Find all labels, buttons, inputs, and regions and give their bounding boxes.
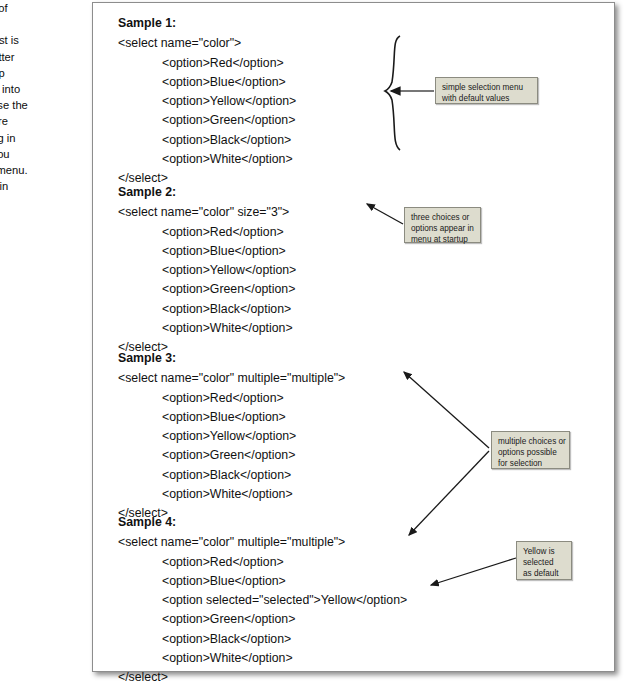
callout-line: three choices or [411,212,474,223]
code-line: <option>Black</option> [118,300,296,319]
code-line: <option>Green</option> [118,111,296,130]
code-line: <option>Blue</option> [118,408,345,427]
text-line: read. A better [0,49,86,65]
code-line: <option>Yellow</option> [118,92,296,111]
code-line: <option>Green</option> [118,610,407,629]
text-line: > tag before [0,113,86,129]
clipped-paragraph: e number of comes too ever, the list is … [0,0,86,200]
callout-line: multiple choices or [498,436,563,447]
callout-line: Yellow is [523,546,565,557]
callout-line: for selection [498,458,563,469]
code-line: <option>Yellow</option> [118,261,296,280]
code-line: <option>Black</option> [118,131,296,150]
callout-line: options possible [498,447,563,458]
code-line: <option>White</option> [118,150,296,169]
code-line: <option>Blue</option> [118,572,407,591]
text-line: ever, the list is [0,32,86,48]
callout-line: as default [523,568,565,579]
sample-title: Sample 1: [118,14,296,33]
code-line: <select name="color" multiple="multiple"… [118,369,345,388]
code-sample-3: Sample 3: <select name="color" multiple=… [118,349,345,524]
callout-yellow-selected-default: Yellow is selected as default [516,541,572,580]
code-sample-2: Sample 2: <select name="color" size="3">… [118,183,296,358]
callout-line: menu at startup [411,234,474,245]
callout-line: options appear in [411,223,474,234]
callout-multiple-choices: multiple choices or options possible for… [491,431,570,469]
code-line: <option>White</option> [118,485,345,504]
callout-line: selected [523,557,565,568]
code-line: <option>Blue</option> [118,242,296,261]
code-line: <option>Red</option> [118,389,345,408]
text-line: option> tag in [0,130,86,146]
code-line: <option>Red</option> [118,54,296,73]
code-sample-1: Sample 1: <select name="color"> <option>… [118,14,296,189]
code-line: <select name="color" size="3"> [118,203,296,222]
left-text-column: e number of comes too ever, the list is … [0,0,86,200]
code-line: <option>Yellow</option> [118,427,345,446]
code-line: <option>Black</option> [118,466,345,485]
text-line: You can use the [0,97,86,113]
code-line: <option>Green</option> [118,446,345,465]
code-line: <option>White</option> [118,319,296,338]
text-line: comes too [0,16,86,32]
sample-title: Sample 4: [118,513,407,532]
code-sample-4: Sample 4: <select name="color" multiple=… [118,513,407,688]
text-line: ast option in [0,178,86,194]
code-line: <option>White</option> [118,649,407,668]
callout-line: with default values [442,93,531,104]
callout-simple-selection-menu: simple selection menu with default value… [435,77,538,104]
sample-title: Sample 3: [118,349,345,368]
code-line: <option>Red</option> [118,553,407,572]
code-line: <option selected="selected">Yellow</opti… [118,591,407,610]
sample-title: Sample 2: [118,183,296,202]
text-line: ke options into [0,81,86,97]
code-line: <option>Blue</option> [118,73,296,92]
callout-line: simple selection menu [442,82,531,93]
code-line: <option>Red</option> [118,223,296,242]
code-line: </select> [118,668,407,687]
text-line: e number of [0,0,86,16]
code-line: <option>Black</option> [118,630,407,649]
code-line: <select name="color" multiple="multiple"… [118,533,407,552]
code-line: <select name="color"> [118,34,296,53]
text-line: , use the [0,194,86,200]
code-line: <option>Green</option> [118,280,296,299]
callout-three-choices: three choices or options appear in menu … [404,207,481,243]
text-line: oup that you [0,146,86,162]
text-line: be to group [0,65,86,81]
text-line: e in a submenu. [0,162,86,178]
